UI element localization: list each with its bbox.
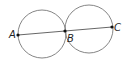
label-c: C: [114, 22, 121, 33]
label-b: B: [67, 33, 74, 44]
point-a: [16, 33, 19, 36]
label-a: A: [8, 29, 16, 40]
geometry-diagram: A B C: [0, 0, 125, 70]
